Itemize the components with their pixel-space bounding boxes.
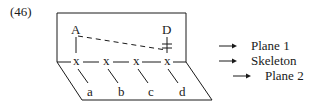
phonology-planes-diagram: (46) A D x x x x a b c d Plane 1 Skeleto… — [0, 0, 315, 104]
segment-b: b — [118, 85, 125, 98]
node-D: D — [162, 23, 171, 36]
arrow-plane-2 — [233, 74, 251, 79]
dashed-spread-line — [78, 36, 166, 50]
skeleton-x-1: x — [73, 54, 80, 67]
arrow-plane-1 — [219, 44, 237, 49]
arrow-skeleton — [219, 59, 237, 64]
example-number: (46) — [10, 5, 32, 18]
skeleton-x-2: x — [103, 54, 110, 67]
assoc-line-c — [138, 69, 148, 83]
legend-plane-2: Plane 2 — [265, 69, 304, 82]
assoc-line-a — [78, 69, 88, 83]
skeleton-x-3: x — [133, 54, 140, 67]
legend-skeleton: Skeleton — [251, 54, 297, 67]
assoc-line-d — [168, 69, 178, 83]
node-A: A — [71, 23, 80, 36]
segment-a: a — [87, 85, 93, 98]
segment-d: d — [179, 85, 186, 98]
segment-c: c — [148, 85, 154, 98]
legend-plane-1: Plane 1 — [251, 39, 290, 52]
assoc-line-b — [108, 69, 118, 83]
skeleton-x-4: x — [164, 54, 171, 67]
